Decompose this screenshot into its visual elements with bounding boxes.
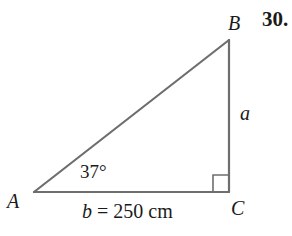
- side-label-a: a: [240, 103, 250, 123]
- vertex-label-b: B: [228, 13, 240, 33]
- problem-number: 30.: [262, 9, 288, 30]
- right-angle-marker-icon: [213, 175, 229, 192]
- side-label-b: b = 250 cm: [82, 201, 173, 221]
- vertex-label-a: A: [7, 191, 19, 211]
- side-b-variable: b: [82, 200, 92, 222]
- vertex-label-c: C: [231, 198, 244, 218]
- side-b-value: = 250 cm: [92, 200, 173, 222]
- angle-label-a: 37°: [80, 162, 107, 181]
- side-c-hypotenuse: [34, 40, 229, 192]
